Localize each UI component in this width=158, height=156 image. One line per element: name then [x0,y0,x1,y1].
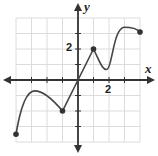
closed-point-marker [91,46,97,52]
function-graph: x y 2 2 [0,0,158,156]
closed-point-marker [13,131,19,137]
y-axis-label: y [82,0,90,14]
y-tick-label-2: 2 [66,41,72,53]
closed-point-marker [137,29,143,35]
x-axis-label: x [144,61,152,76]
x-tick-label-2: 2 [105,83,111,95]
closed-point-marker [60,108,66,114]
